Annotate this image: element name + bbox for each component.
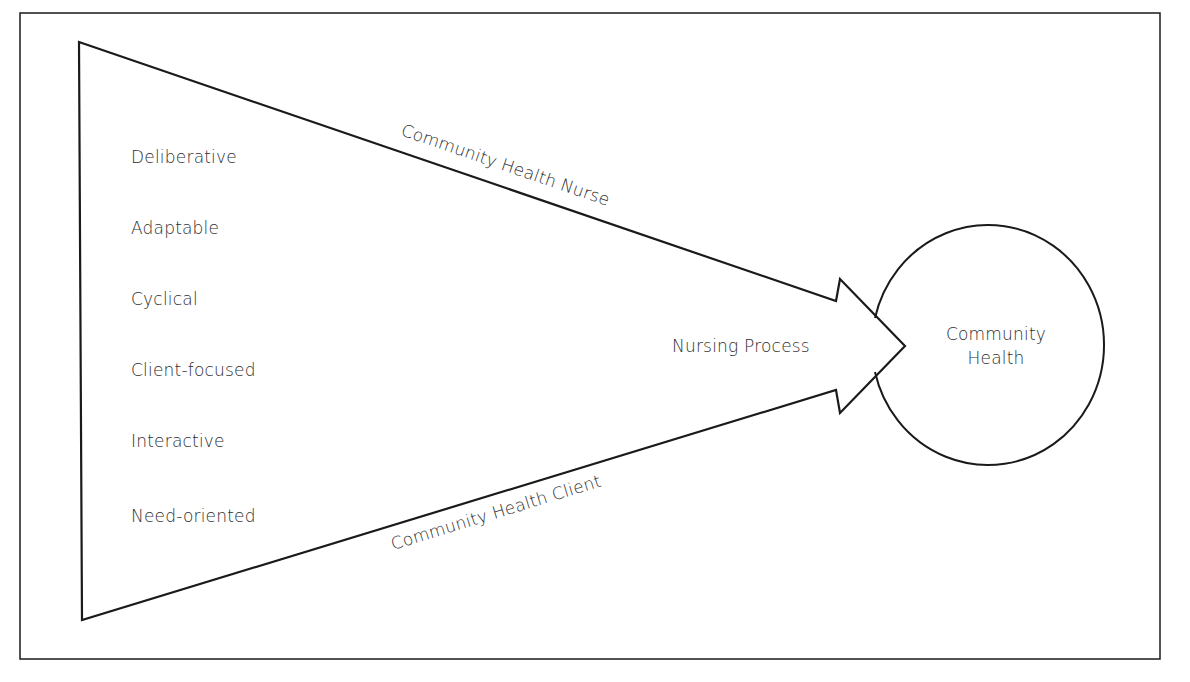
attribute-item: Interactive — [131, 431, 225, 451]
attribute-item: Adaptable — [131, 218, 219, 238]
process-funnel-arrow — [79, 42, 905, 620]
attribute-list: Deliberative Adaptable Cyclical Client-f… — [131, 147, 256, 526]
arrow-label: Nursing Process — [672, 336, 810, 356]
community-health-circle — [875, 225, 1104, 465]
top-edge-label: Community Health Nurse — [399, 120, 613, 210]
attribute-item: Cyclical — [131, 289, 198, 309]
attribute-item: Client-focused — [131, 360, 256, 380]
bottom-edge-label: Community Health Client — [388, 471, 603, 554]
nursing-process-diagram: Deliberative Adaptable Cyclical Client-f… — [0, 0, 1190, 682]
target-label-line1: Community — [946, 324, 1046, 344]
target-label-line2: Health — [967, 348, 1024, 368]
attribute-item: Need-oriented — [131, 506, 256, 526]
attribute-item: Deliberative — [131, 147, 237, 167]
